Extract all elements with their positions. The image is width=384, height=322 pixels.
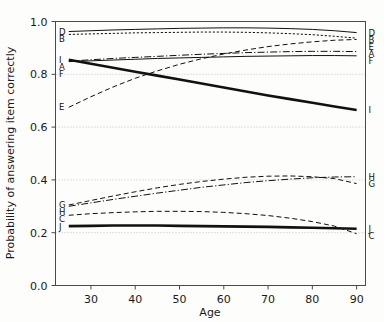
curve-label-J: J [58,222,62,232]
y-tick-label: 0.4 [30,174,48,187]
y-tick-label: 1.0 [30,16,48,29]
series-line-I [69,60,357,110]
x-axis-ticks: 30405060708090 [84,286,364,306]
series-line-J [69,226,357,229]
y-axis-title: Probability of answering item correctly [4,46,17,259]
curve-layer [69,28,357,234]
series-line-B [69,32,357,38]
chart-figure: 30405060708090 0.00.20.40.60.81.0 DBIAFE… [0,0,384,322]
curve-endpoint-labels: DBIAFEGHCJDBEAFIHGJC [58,27,376,241]
series-line-E [69,39,357,107]
y-axis-ticks: 0.00.20.40.60.81.0 [30,16,56,293]
x-tick-label: 80 [305,293,319,306]
curve-label-F: F [369,56,374,66]
gridlines [56,22,366,286]
series-line-D [69,28,357,33]
x-tick-label: 50 [173,293,187,306]
x-tick-label: 60 [217,293,231,306]
x-tick-label: 90 [350,293,364,306]
y-tick-label: 0.2 [30,227,48,240]
series-line-G [69,176,357,205]
series-line-H [69,177,357,207]
curve-label-I: I [369,105,372,115]
y-tick-label: 0.6 [30,121,48,134]
y-tick-label: 0.0 [30,280,48,293]
curve-label-E: E [59,102,64,112]
x-tick-label: 30 [84,293,98,306]
curve-label-G: G [369,179,376,189]
plot-frame [56,22,366,286]
x-tick-label: 70 [261,293,275,306]
x-tick-label: 40 [128,293,142,306]
curve-label-C: C [369,231,375,241]
y-tick-label: 0.8 [30,68,48,81]
chart-svg: 30405060708090 0.00.20.40.60.81.0 DBIAFE… [0,0,384,322]
series-line-C [69,211,357,233]
x-axis-title: Age [199,306,221,319]
curve-label-F: F [59,69,64,79]
curve-label-B: B [59,34,65,44]
